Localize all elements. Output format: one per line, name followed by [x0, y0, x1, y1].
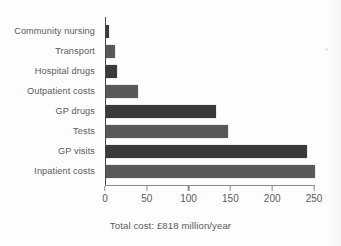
page-scan-speck — [325, 48, 328, 51]
x-tick-mark — [146, 186, 147, 191]
bar-tests — [106, 125, 228, 138]
category-label-row: Community nursing — [0, 21, 100, 41]
category-label-row: Outpatient costs — [0, 81, 100, 101]
bar-row — [106, 41, 315, 61]
x-tick-50: 50 — [141, 186, 152, 204]
bar-chart-figure: Community nursing Transport Hospital dru… — [0, 0, 341, 246]
category-label-gp-visits: GP visits — [58, 146, 95, 156]
category-label-tests: Tests — [73, 126, 95, 136]
category-axis-labels: Community nursing Transport Hospital dru… — [0, 21, 100, 181]
x-tick-0: 0 — [102, 186, 108, 204]
category-label-row: Tests — [0, 121, 100, 141]
category-label-row: GP visits — [0, 141, 100, 161]
bar-row — [106, 161, 315, 181]
category-label-hospital-drugs: Hospital drugs — [35, 66, 95, 76]
page-scan-edge — [327, 0, 341, 246]
x-tick-250: 250 — [306, 186, 323, 204]
bar-row — [106, 101, 315, 121]
category-label-gp-drugs: GP drugs — [56, 106, 95, 116]
bar-row — [106, 81, 315, 101]
x-tick-mark — [104, 186, 105, 191]
category-label-row: Hospital drugs — [0, 61, 100, 81]
category-label-outpatient-costs: Outpatient costs — [27, 86, 95, 96]
x-tick-200: 200 — [264, 186, 281, 204]
bar-gp-drugs — [106, 105, 216, 118]
category-label-row: Inpatient costs — [0, 161, 100, 181]
category-label-row: GP drugs — [0, 101, 100, 121]
chart-caption: Total cost: £818 million/year — [0, 220, 341, 231]
bar-gp-visits — [106, 145, 307, 158]
x-tick-label: 250 — [306, 193, 323, 204]
bar-series — [106, 21, 315, 181]
x-tick-mark — [188, 186, 189, 191]
x-axis-ticks: 050100150200250 — [105, 186, 315, 208]
x-tick-150: 150 — [222, 186, 239, 204]
category-label-inpatient-costs: Inpatient costs — [34, 166, 95, 176]
bar-transport — [106, 45, 115, 58]
category-label-community-nursing: Community nursing — [14, 26, 95, 36]
x-tick-label: 150 — [222, 193, 239, 204]
x-tick-mark — [272, 186, 273, 191]
x-tick-mark — [230, 186, 231, 191]
x-tick-label: 200 — [264, 193, 281, 204]
bar-row — [106, 121, 315, 141]
x-tick-mark — [313, 186, 314, 191]
bar-hospital-drugs — [106, 65, 117, 78]
bar-inpatient-costs — [106, 165, 315, 178]
category-label-row: Transport — [0, 41, 100, 61]
x-tick-100: 100 — [180, 186, 197, 204]
plot-area — [105, 21, 315, 181]
category-label-transport: Transport — [55, 46, 95, 56]
x-tick-label: 100 — [180, 193, 197, 204]
bar-community-nursing — [106, 25, 109, 38]
x-tick-label: 50 — [141, 193, 152, 204]
bar-row — [106, 21, 315, 41]
bar-row — [106, 141, 315, 161]
x-tick-label: 0 — [102, 193, 108, 204]
bar-outpatient-costs — [106, 85, 138, 98]
bar-row — [106, 61, 315, 81]
